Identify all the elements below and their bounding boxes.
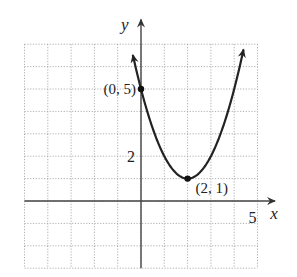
point-marker <box>184 175 190 181</box>
y-tick-label: 2 <box>127 148 135 165</box>
axes <box>25 20 275 269</box>
parabola-right-branch <box>188 50 244 179</box>
labeled-points: (0, 5)(2, 1) <box>104 81 229 197</box>
x-tick-label: 5 <box>249 209 257 226</box>
point-marker <box>138 86 144 92</box>
parabola-curve <box>133 50 244 179</box>
graph: (0, 5)(2, 1) xy52 <box>0 0 297 277</box>
x-axis-label: x <box>269 204 278 223</box>
point-label: (2, 1) <box>196 180 229 197</box>
y-axis-label: y <box>119 15 129 34</box>
point-label: (0, 5) <box>104 81 137 98</box>
